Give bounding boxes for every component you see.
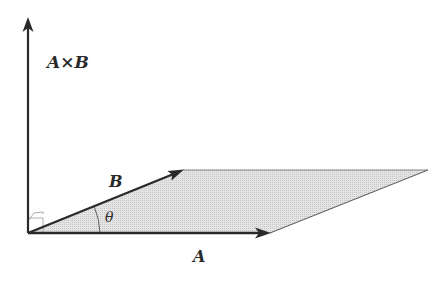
cross-product-diagram: A×B B θ A	[0, 0, 446, 281]
cross-product-vector	[23, 17, 34, 233]
label-angle-theta: θ	[105, 209, 114, 225]
parallelogram-area	[28, 170, 428, 233]
label-vector-a: A	[191, 247, 205, 266]
label-vector-b: B	[108, 172, 123, 191]
label-cross-product: A×B	[45, 52, 89, 72]
